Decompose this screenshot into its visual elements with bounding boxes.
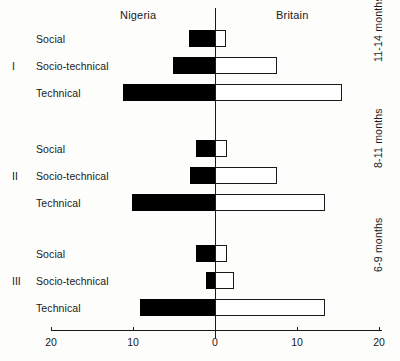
bar-britain [215, 57, 277, 74]
row-label: Socio-technical [36, 60, 109, 72]
group-age-label: 8-11 months [372, 108, 384, 168]
group-numeral: II [12, 170, 18, 182]
x-axis-tick [51, 327, 52, 331]
bar-britain [215, 167, 277, 184]
group-age-label: 6-9 months [372, 217, 384, 272]
bar-nigeria [140, 299, 215, 316]
group-numeral: III [12, 275, 21, 287]
bidirectional-bar-chart: Nigeria Britain 201001020 SocialSocio-te… [0, 0, 400, 361]
x-axis-tick-label: 20 [45, 336, 57, 348]
row-label: Technical [36, 87, 81, 99]
group-numeral: I [12, 60, 15, 72]
row-label: Social [36, 33, 65, 45]
bar-britain [215, 30, 226, 47]
row-label: Technical [36, 197, 81, 209]
row-label: Technical [36, 302, 81, 314]
bar-nigeria [190, 167, 215, 184]
row-label: Social [36, 248, 65, 260]
bar-britain [215, 245, 227, 262]
bar-nigeria [123, 84, 215, 101]
bar-nigeria [189, 30, 215, 47]
x-axis-tick [379, 327, 380, 331]
bar-britain [215, 140, 227, 157]
group-age-label: 11-14 months [372, 0, 384, 62]
bar-nigeria [206, 272, 215, 289]
x-axis-tick [297, 327, 298, 331]
x-axis-tick-label: 10 [291, 336, 303, 348]
bar-nigeria [196, 245, 215, 262]
bar-nigeria [173, 57, 215, 74]
row-label: Socio-technical [36, 170, 109, 182]
column-header-nigeria: Nigeria [120, 9, 156, 21]
bar-britain [215, 84, 342, 101]
bar-britain [215, 272, 234, 289]
bar-nigeria [196, 140, 215, 157]
x-axis-tick [133, 327, 134, 331]
column-header-britain: Britain [276, 9, 309, 21]
x-axis-tick-label: 0 [212, 336, 218, 348]
bar-nigeria [132, 194, 215, 211]
x-axis-tick-label: 20 [373, 336, 385, 348]
row-label: Socio-technical [36, 275, 109, 287]
x-axis-tick-label: 10 [127, 336, 139, 348]
row-label: Social [36, 143, 65, 155]
bar-britain [215, 299, 325, 316]
x-axis-tick [215, 327, 216, 331]
x-axis-line [51, 330, 382, 331]
bar-britain [215, 194, 325, 211]
